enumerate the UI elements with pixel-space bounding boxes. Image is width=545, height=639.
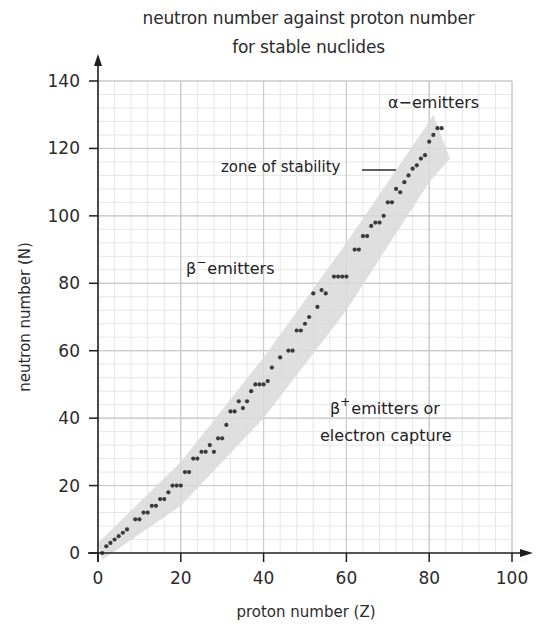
y-tick-label: 140 xyxy=(48,71,80,91)
data-point xyxy=(373,221,377,225)
data-point xyxy=(249,389,253,393)
data-point xyxy=(158,497,162,501)
data-point xyxy=(208,443,212,447)
y-tick-label: 20 xyxy=(58,476,80,496)
data-point xyxy=(435,126,439,130)
y-tick-label: 120 xyxy=(48,138,80,158)
data-point xyxy=(117,534,121,538)
x-axis-arrow-icon xyxy=(520,549,533,557)
beta-minus-sup: − xyxy=(196,255,206,269)
data-point xyxy=(319,288,323,292)
data-point xyxy=(369,224,373,228)
data-point xyxy=(224,423,228,427)
data-point xyxy=(262,382,266,386)
data-point xyxy=(427,140,431,144)
y-tick-label: 0 xyxy=(69,543,80,563)
data-point xyxy=(216,436,220,440)
data-point xyxy=(191,457,195,461)
y-tick-label: 100 xyxy=(48,206,80,226)
data-point xyxy=(241,406,245,410)
data-point xyxy=(187,470,191,474)
data-point xyxy=(423,153,427,157)
data-point xyxy=(361,234,365,238)
data-point xyxy=(133,517,137,521)
data-point xyxy=(245,399,249,403)
data-point xyxy=(324,291,328,295)
data-point xyxy=(154,504,158,508)
beta-plus-text: emitters or xyxy=(351,399,440,418)
data-point xyxy=(233,409,237,413)
data-point xyxy=(411,167,415,171)
beta-minus-symbol: β xyxy=(186,259,196,278)
data-point xyxy=(104,544,108,548)
data-point xyxy=(377,221,381,225)
data-point xyxy=(125,527,129,531)
data-point xyxy=(353,247,357,251)
data-point xyxy=(295,328,299,332)
data-point xyxy=(431,133,435,137)
scatter-chart: 020406080100020406080100120140 proton nu… xyxy=(0,0,545,639)
data-point xyxy=(440,126,444,130)
x-tick-label: 60 xyxy=(336,568,358,588)
y-tick-label: 80 xyxy=(58,273,80,293)
data-point xyxy=(179,483,183,487)
data-point xyxy=(307,315,311,319)
data-point xyxy=(340,274,344,278)
data-point xyxy=(220,436,224,440)
data-point xyxy=(394,187,398,191)
data-point xyxy=(357,247,361,251)
data-point xyxy=(137,517,141,521)
data-point xyxy=(121,531,125,535)
zone-of-stability-label: zone of stability xyxy=(221,158,341,176)
beta-plus-sup: + xyxy=(340,395,350,409)
data-point xyxy=(344,274,348,278)
x-tick-label: 100 xyxy=(496,568,528,588)
y-tick-label: 60 xyxy=(58,341,80,361)
data-point xyxy=(150,504,154,508)
data-point xyxy=(402,180,406,184)
data-point xyxy=(336,274,340,278)
data-point xyxy=(166,490,170,494)
data-point xyxy=(199,450,203,454)
data-point xyxy=(382,214,386,218)
data-point xyxy=(390,200,394,204)
data-point xyxy=(170,483,174,487)
data-point xyxy=(398,190,402,194)
data-point xyxy=(303,322,307,326)
data-point xyxy=(204,450,208,454)
alpha-emitters-label: α−emitters xyxy=(388,93,479,112)
data-point xyxy=(237,399,241,403)
data-point xyxy=(278,355,282,359)
data-point xyxy=(290,349,294,353)
data-point xyxy=(332,274,336,278)
data-point xyxy=(183,470,187,474)
beta-minus-text: emitters xyxy=(207,259,274,278)
data-point xyxy=(175,483,179,487)
x-axis-label: proton number (Z) xyxy=(236,603,375,621)
x-tick-label: 20 xyxy=(170,568,192,588)
data-point xyxy=(195,457,199,461)
data-point xyxy=(266,379,270,383)
x-tick-label: 40 xyxy=(253,568,275,588)
x-tick-label: 0 xyxy=(93,568,104,588)
data-point xyxy=(270,365,274,369)
data-point xyxy=(419,156,423,160)
data-point xyxy=(299,328,303,332)
data-point xyxy=(406,173,410,177)
data-point xyxy=(141,510,145,514)
data-point xyxy=(365,234,369,238)
data-point xyxy=(162,497,166,501)
y-tick-label: 40 xyxy=(58,408,80,428)
data-point xyxy=(228,409,232,413)
y-axis-label: neutron number (N) xyxy=(16,242,34,392)
data-point xyxy=(253,382,257,386)
beta-plus-symbol: β xyxy=(330,399,340,418)
data-point xyxy=(386,200,390,204)
x-tick-label: 80 xyxy=(418,568,440,588)
data-point xyxy=(415,163,419,167)
data-point xyxy=(315,305,319,309)
data-point xyxy=(146,510,150,514)
data-point xyxy=(108,541,112,545)
data-point xyxy=(311,291,315,295)
data-point xyxy=(212,450,216,454)
